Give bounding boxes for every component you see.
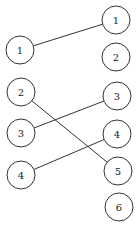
node-label: 4 (18, 170, 24, 181)
edges-layer (32, 24, 107, 169)
node-label: 5 (115, 166, 121, 177)
edge-l4-r4 (34, 139, 104, 169)
right-node-4: 4 (103, 120, 131, 148)
node-label: 2 (113, 52, 119, 63)
edge-l3-r3 (34, 101, 104, 128)
bipartite-diagram: 1234123456 (0, 0, 136, 230)
right-node-2: 2 (102, 43, 130, 71)
right-node-5: 5 (104, 157, 132, 185)
right-node-1: 1 (102, 6, 130, 34)
nodes-layer: 1234123456 (6, 6, 133, 221)
node-label: 3 (114, 91, 120, 102)
left-node-4: 4 (7, 161, 35, 189)
right-node-3: 3 (103, 82, 131, 110)
node-label: 1 (17, 45, 23, 56)
right-node-6: 6 (105, 193, 133, 221)
node-label: 6 (116, 202, 122, 213)
node-label: 3 (18, 128, 24, 139)
edge-l2-r5 (32, 101, 107, 162)
left-node-1: 1 (6, 36, 34, 64)
node-label: 4 (114, 129, 120, 140)
node-label: 2 (18, 87, 24, 98)
edge-l1-r1 (33, 24, 102, 46)
left-node-2: 2 (7, 78, 35, 106)
node-label: 1 (113, 15, 119, 26)
left-node-3: 3 (7, 119, 35, 147)
